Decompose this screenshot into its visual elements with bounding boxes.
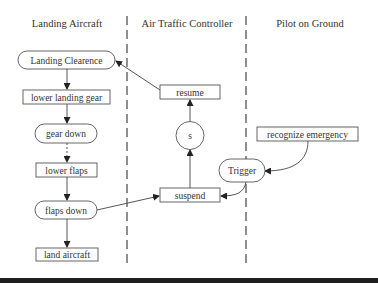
node-s: s <box>176 122 204 150</box>
edge-flaps-down-to-suspend <box>97 196 159 210</box>
svg-text:s: s <box>188 131 192 141</box>
node-lower-flaps: lower flaps <box>36 163 97 177</box>
node-flaps-down: flaps down <box>35 201 97 219</box>
bottom-border <box>0 278 378 283</box>
svg-text:lower flaps: lower flaps <box>45 166 88 176</box>
node-gear-down: gear down <box>35 124 97 143</box>
lane-title-landing-aircraft: Landing Aircraft <box>32 18 102 29</box>
diagram-canvas: Landing Aircraft Air Traffic Controller … <box>0 0 378 283</box>
svg-text:land aircraft: land aircraft <box>44 250 91 260</box>
svg-text:recognize emergency: recognize emergency <box>267 130 348 140</box>
lane-title-air-traffic-controller: Air Traffic Controller <box>142 18 233 29</box>
svg-text:gear down: gear down <box>46 129 86 139</box>
edge-recognize-to-trigger <box>265 141 308 171</box>
svg-text:Landing Clearence: Landing Clearence <box>30 56 102 66</box>
node-lower-landing-gear: lower landing gear <box>23 90 110 104</box>
node-trigger: Trigger <box>219 159 265 182</box>
node-landing-clearence: Landing Clearence <box>18 51 115 69</box>
svg-text:suspend: suspend <box>175 191 206 201</box>
svg-text:lower landing gear: lower landing gear <box>31 93 103 103</box>
svg-text:Trigger: Trigger <box>228 166 257 176</box>
svg-text:flaps down: flaps down <box>45 206 87 216</box>
edge-trigger-to-suspend <box>221 182 246 196</box>
node-land-aircraft: land aircraft <box>36 248 98 261</box>
svg-text:resume: resume <box>176 88 203 98</box>
node-resume: resume <box>160 85 220 99</box>
swimlane-diagram: Landing Aircraft Air Traffic Controller … <box>0 0 378 283</box>
node-suspend: suspend <box>160 188 220 202</box>
node-recognize-emergency: recognize emergency <box>257 127 358 141</box>
edge-resume-to-clearence <box>116 61 160 90</box>
lane-title-pilot-on-ground: Pilot on Ground <box>276 18 344 29</box>
